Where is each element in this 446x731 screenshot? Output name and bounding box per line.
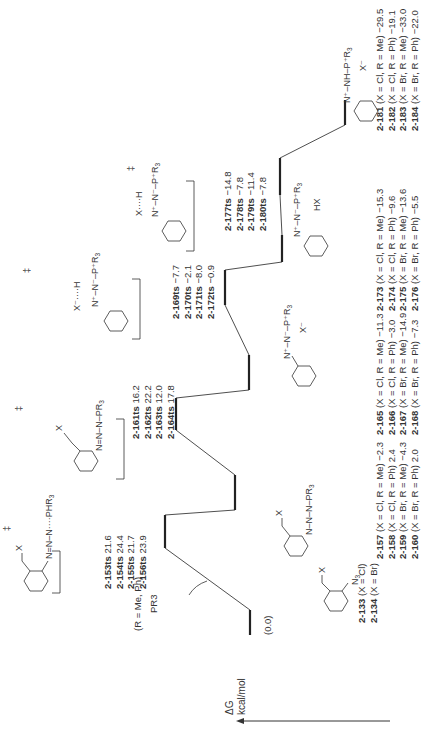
ts3-chain: N⁺–N⁻–P⁺R3 bbox=[90, 252, 101, 307]
ts1-dagger: ‡ bbox=[2, 526, 12, 531]
ts4-labels: 2-177ts −14.8 2-178ts −7.8 2-179ts −11.4… bbox=[222, 172, 268, 231]
reagent-arrow-icon bbox=[189, 581, 207, 595]
ts2-dagger: ‡ bbox=[14, 406, 24, 411]
ts1-labels: 2-153ts 21.6 2-154ts 24.4 2-155ts 21.7 2… bbox=[102, 535, 148, 589]
product-counterion: X⁻ bbox=[358, 60, 368, 71]
structure-int2 bbox=[292, 356, 316, 386]
ts2-chain: N=N–N–PR3 bbox=[94, 400, 105, 451]
product-chain: N⁺–NH–P⁺R3 bbox=[342, 47, 353, 103]
int2-chain: N⁺–N⁻–P⁺R3 bbox=[282, 304, 293, 359]
ts2-labels: 2-161ts 16.2 2-162ts 22.2 2-163ts 12.0 2… bbox=[130, 385, 176, 439]
int3-labels: 2-173 (X = Cl, R = Me) −15.3 2-174 (X = … bbox=[374, 189, 420, 311]
ts3-labels: 2-169ts −7.7 2-170ts −2.1 2-171ts −8.0 2… bbox=[170, 265, 216, 319]
energy-profile-diagram: X N3 X N=N–N····PHR3 ‡ X N–N–N–PR3 X N=N… bbox=[0, 0, 446, 731]
ts3-dagger: ‡ bbox=[22, 268, 32, 273]
svg-text:X: X bbox=[274, 510, 284, 516]
svg-text:X: X bbox=[54, 425, 64, 431]
start-energy-label: (0.0) bbox=[262, 615, 274, 635]
structure-int3 bbox=[304, 236, 328, 256]
int1-chain: N–N–N–PR3 bbox=[304, 484, 315, 535]
product-labels: 2-181 (X = Cl, R = Me) −29.5 2-182 (X = … bbox=[374, 9, 420, 131]
ts4-dagger: ‡ bbox=[126, 166, 136, 171]
svg-text:X: X bbox=[14, 545, 24, 551]
int2-labels: 2-165 (X = Cl, R = Me) −11.3 2-166 (X = … bbox=[374, 313, 420, 435]
structure-start-material bbox=[322, 575, 348, 611]
int3-chain: N⁺–N⁻–P⁺R3 bbox=[292, 182, 303, 237]
structure-ts1 bbox=[22, 551, 60, 593]
ts4-chain: N⁺–N⁻–P⁺R3 bbox=[150, 162, 161, 217]
int3-hx: HX bbox=[312, 198, 322, 211]
int2-counterion: X⁻ bbox=[298, 322, 308, 333]
structure-ts3 bbox=[104, 279, 140, 339]
energy-axis-label: ΔG kcal/mol bbox=[224, 678, 248, 715]
ts4-xh: X····H bbox=[134, 192, 144, 217]
ts1-azide-chain: N=N–N····PHR3 bbox=[44, 494, 55, 559]
energy-axis-arrowhead-icon bbox=[236, 718, 244, 724]
int1-labels: 2-157 (X = Cl, R = Me) −2.3 2-158 (X = C… bbox=[374, 442, 420, 559]
structure-ts4 bbox=[162, 181, 194, 251]
start-species-labels: 2-133 (X = Cl) 2-134 (X = Br) bbox=[356, 563, 379, 623]
reagent-label: PR3 bbox=[148, 595, 160, 613]
ts3-xh: X⁻····H bbox=[72, 282, 82, 312]
start-x-atom: X bbox=[317, 567, 327, 573]
